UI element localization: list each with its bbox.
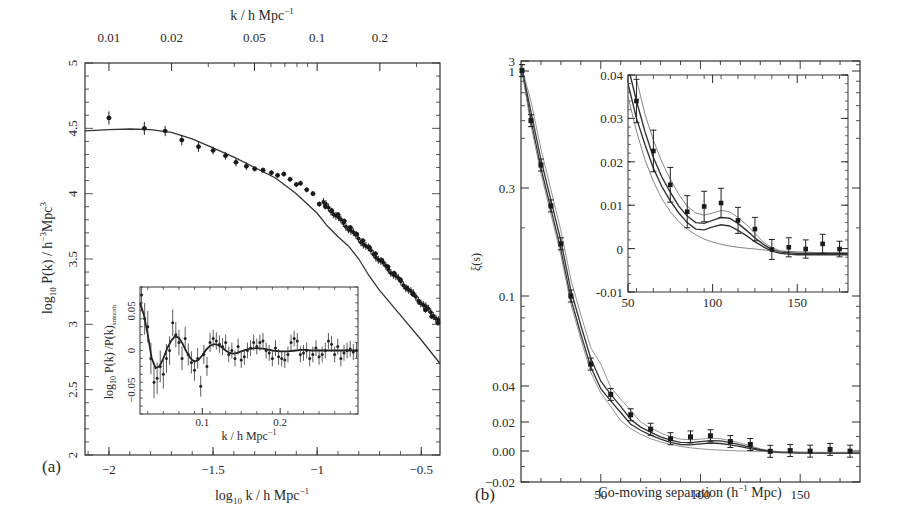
data-point	[244, 164, 249, 169]
data-point	[688, 434, 693, 439]
svg-text:50: 50	[622, 295, 635, 310]
data-point	[668, 436, 673, 441]
data-point	[261, 168, 266, 173]
data-point	[628, 412, 633, 417]
data-point	[848, 449, 853, 454]
svg-text:0: 0	[125, 347, 137, 353]
svg-text:0.1: 0.1	[195, 416, 209, 428]
top-tick-label: 0.01	[98, 30, 121, 45]
svg-text:0: 0	[617, 242, 624, 257]
data-point	[311, 191, 316, 196]
svg-text:0.01: 0.01	[600, 198, 623, 213]
x-tick-label: −0.5	[409, 462, 433, 477]
top-tick-label: 0.2	[372, 30, 388, 45]
data-point	[196, 144, 201, 149]
y-tick-label: 4	[65, 190, 80, 197]
y-tick-label: 0.1	[499, 289, 515, 304]
panel-a-power-spectrum: −2−1.5−1−0.522.533.544.550.010.020.050.1…	[38, 6, 440, 506]
data-point	[275, 173, 280, 178]
data-point	[180, 138, 185, 143]
panel-a-x-axis-title: log10 k / h Mpc−1	[215, 486, 309, 506]
panel-b-label: (b)	[475, 485, 495, 504]
data-point	[282, 172, 287, 177]
data-point	[588, 362, 593, 367]
data-point	[768, 449, 773, 454]
panel-b-correlation-function: 50100150−0.020.000.020.040.10.313 Co-mov…	[469, 32, 860, 504]
data-point	[298, 181, 303, 186]
data-point	[223, 153, 228, 158]
data-point	[234, 160, 239, 165]
data-point	[294, 182, 299, 187]
svg-text:−0.05: −0.05	[125, 377, 137, 403]
figure: −2−1.5−1−0.522.533.544.550.010.020.050.1…	[0, 0, 897, 525]
data-point	[558, 241, 563, 246]
panel-b-x-axis-title: Co-moving separation (h−1 Mpc)	[598, 483, 782, 501]
data-point	[728, 439, 733, 444]
data-point	[608, 392, 613, 397]
data-point	[788, 448, 793, 453]
y-tick-label: 0.3	[499, 181, 515, 196]
panel-a-y-axis-title: log10 P(k) / h−3Mpc3	[38, 201, 58, 314]
panel-a-label: (a)	[42, 457, 61, 476]
y-tick-label: 0.02	[492, 415, 515, 430]
panel-b-y-axis-title: ξ(s)	[469, 253, 483, 271]
data-point	[142, 126, 147, 131]
data-point	[519, 68, 524, 73]
svg-text:150: 150	[790, 487, 810, 502]
panel-b-inset: 50100150-0.0100.010.020.030.04	[596, 32, 848, 310]
data-point	[828, 447, 833, 452]
svg-text:0.2: 0.2	[273, 416, 287, 428]
svg-text:150: 150	[787, 295, 807, 310]
y-tick-label: 3	[509, 54, 516, 69]
data-point	[548, 203, 553, 208]
data-point	[748, 442, 753, 447]
inset-a-x-axis-title: k / h Mpc−1	[222, 428, 277, 443]
y-tick-label: 2	[65, 452, 80, 459]
x-tick-label: −2	[102, 462, 116, 477]
top-tick-label: 0.02	[160, 30, 183, 45]
svg-text:0.02: 0.02	[600, 155, 623, 170]
data-point	[163, 129, 168, 134]
data-point	[708, 433, 713, 438]
data-point	[568, 294, 573, 299]
data-point	[304, 187, 309, 192]
svg-text:0.05: 0.05	[125, 301, 137, 321]
data-point	[538, 163, 543, 168]
y-tick-label: 3.5	[65, 251, 80, 267]
inset-a-y-axis-title: log10 P(k) /P(k)smooth	[102, 304, 118, 399]
data-point	[269, 170, 274, 175]
top-tick-label: 0.05	[243, 30, 266, 45]
y-tick-label: 0.00	[492, 444, 515, 459]
y-tick-label: 2.5	[65, 382, 80, 398]
top-tick-label: 0.1	[309, 30, 325, 45]
data-point	[288, 177, 293, 182]
data-point	[648, 427, 653, 432]
x-tick-label: −1	[310, 462, 324, 477]
y-tick-label: 5	[65, 60, 80, 67]
data-point	[211, 148, 216, 153]
data-point	[252, 167, 257, 172]
y-tick-label: 0.04	[492, 379, 515, 394]
data-point	[107, 116, 112, 121]
panel-a-inset: 0.10.2−0.0500.05 k / h Mpc−1 log10 P(k) …	[102, 287, 358, 443]
svg-text:0.04: 0.04	[600, 68, 623, 83]
y-tick-label: 4.5	[65, 120, 80, 136]
x-tick-label: −1.5	[201, 462, 225, 477]
data-point	[317, 202, 322, 207]
svg-text:-0.01: -0.01	[596, 285, 623, 300]
data-point	[528, 118, 533, 123]
y-tick-label: 3	[65, 321, 80, 328]
svg-text:0.03: 0.03	[600, 111, 623, 126]
svg-text:100: 100	[703, 295, 723, 310]
panel-a-top-axis-title: k / h Mpc−1	[230, 6, 294, 23]
data-point	[808, 449, 813, 454]
